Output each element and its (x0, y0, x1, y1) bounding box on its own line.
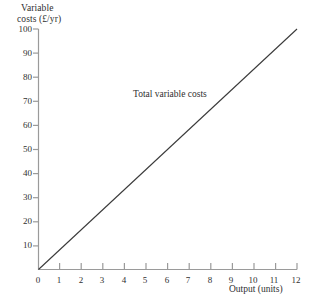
variable-costs-chart: Variable costs (£/yr) Output (units) Tot… (0, 0, 310, 301)
chart-canvas (0, 0, 310, 301)
x-axis-ticks (60, 263, 297, 270)
series-line-total-variable-costs (39, 29, 298, 270)
y-axis-ticks (33, 29, 39, 246)
